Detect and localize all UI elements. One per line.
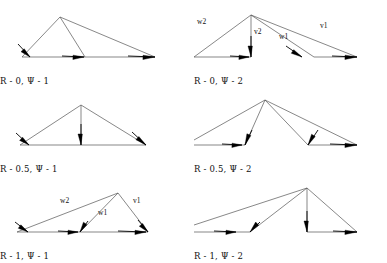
vector-label-w2: w2: [60, 196, 69, 205]
arrow-v2-head: [245, 134, 251, 145]
arrow-w1-head: [291, 50, 302, 57]
panel-r0-psi1-canvas: [0, 0, 193, 88]
arrow-v1-head: [345, 55, 357, 59]
vector-edge: [81, 105, 146, 145]
panel-r05-psi1: R - 0.5, Ψ - 1: [0, 88, 193, 176]
vector-edge: [194, 188, 307, 225]
arrow-w2-base-head: [239, 55, 249, 59]
vector-edge: [20, 105, 81, 145]
arrow-base-mid-head: [68, 230, 78, 234]
panel-r1-psi1: w2w1v1R - 1, Ψ - 1: [0, 175, 193, 263]
vector-label-v1: v1: [320, 21, 328, 30]
vector-label-v2: v2: [254, 27, 262, 36]
vector-edge: [194, 100, 265, 140]
arrow-w2-base-head: [232, 143, 242, 147]
arrow-v1-head: [139, 223, 148, 232]
panel-r1-psi1-caption: R - 1, Ψ - 1: [0, 251, 49, 261]
arrow-base-left-head: [226, 230, 236, 234]
vector-label-w1: w1: [279, 32, 288, 41]
vector-edge: [307, 188, 357, 232]
panel-r05-psi2: R - 0.5, Ψ - 2: [194, 88, 387, 176]
arrow-center-down-head: [78, 134, 82, 145]
arrow-w2-head: [250, 222, 259, 232]
panel-r05-psi2-canvas: [194, 88, 387, 176]
panel-r05-psi2-caption: R - 0.5, Ψ - 2: [194, 164, 252, 174]
panel-r0-psi1: R - 0, Ψ - 1: [0, 0, 193, 88]
arrow-base-right-head: [135, 230, 146, 234]
vector-edge: [60, 17, 155, 57]
vector-label-w2: w2: [197, 17, 206, 26]
vector-label-w1: w1: [98, 208, 107, 217]
panel-r0-psi2-canvas: w2v2w1v1: [194, 0, 387, 88]
vector-diagram-figure: R - 0, Ψ - 1w2v2w1v1R - 0, Ψ - 2R - 0.5,…: [0, 0, 387, 263]
vector-edge: [60, 17, 85, 57]
panel-r1-psi2-caption: R - 1, Ψ - 2: [194, 251, 243, 261]
arrow-right-down-head: [136, 137, 146, 145]
vector-edge: [265, 100, 308, 145]
arrow-left-down-head: [20, 137, 29, 145]
arrow-v2-down-head: [304, 221, 308, 232]
panel-r1-psi2: R - 1, Ψ - 2: [194, 175, 387, 263]
panel-r05-psi1-canvas: [0, 88, 193, 176]
panel-r0-psi2-caption: R - 0, Ψ - 2: [194, 76, 243, 86]
arrow-mid-head: [73, 55, 84, 59]
vector-edge: [22, 17, 60, 57]
vector-label-v1: v1: [133, 196, 141, 205]
panel-r1-psi2-canvas: [194, 175, 387, 263]
panel-r05-psi1-caption: R - 0.5, Ψ - 1: [0, 164, 58, 174]
panel-r0-psi2: w2v2w1v1R - 0, Ψ - 2: [194, 0, 387, 88]
arrow-v2-down-head: [248, 46, 252, 57]
panel-r0-psi1-caption: R - 0, Ψ - 1: [0, 76, 49, 86]
panel-r1-psi1-canvas: w2w1v1: [0, 175, 193, 263]
arrow-w1-head: [308, 134, 315, 145]
